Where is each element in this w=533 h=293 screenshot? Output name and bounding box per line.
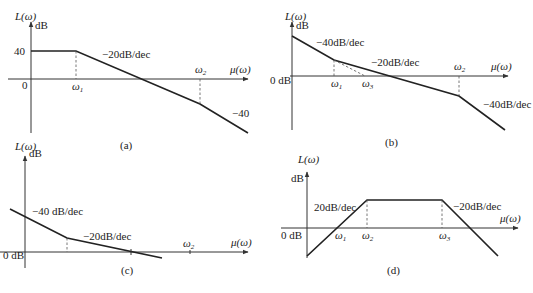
level-label: 40 [14,45,26,57]
tick-omega1: ω1 [72,80,83,94]
caption: (d) [387,264,400,277]
panel-b: L(ω) dB 0 dB −40dB/dec −20dB/dec −40dB/d… [270,10,531,149]
slope-label-1: −40 dB/dec [32,205,83,217]
tick-omega2: ω2 [195,63,207,77]
slope-label-1: −20dB/dec [102,48,150,60]
y-unit-label: dB [296,19,309,31]
tick-omega2: ω2 [454,60,466,74]
asymptote-curve [292,36,505,130]
caption: (b) [385,136,398,149]
x-axis-label: μ(ω) [490,60,512,73]
y-unit-label: dB [29,147,42,159]
slope-label-1: 20dB/dec [314,201,356,213]
slope-label-2: −40 [232,107,250,119]
origin-label: 0 dB [270,74,291,86]
panel-a: L(ω) dB 40 0 ω1 ω2 −20dB/dec −40 μ(ω) (a… [8,10,251,152]
x-axis-label: μ(ω) [499,212,521,225]
y-unit-label: dB [291,172,304,184]
origin-label: 0 [22,79,28,91]
caption: (a) [120,139,133,152]
origin-label: 0 dB [3,249,24,261]
y-unit-label: dB [35,19,48,31]
slope-label-3: −40dB/dec [483,98,531,110]
slope-label-2: −20dB/dec [453,200,501,212]
tick-omega3: ω3 [439,229,451,243]
tick-omega2: ω2 [183,237,195,251]
bode-diagram-figure: L(ω) dB 40 0 ω1 ω2 −20dB/dec −40 μ(ω) (a… [0,0,533,293]
tick-omega2: ω2 [362,229,374,243]
panel-c: L(ω) dB 0 dB −40 dB/dec −20dB/dec ω2 μ(ω… [0,140,252,277]
slope-label-2: −20dB/dec [371,56,419,68]
slope-label-2: −20dB/dec [83,230,131,242]
x-axis-label: μ(ω) [230,236,252,249]
slope-label-1: −40dB/dec [316,36,364,48]
asymptote-curve [31,51,248,133]
origin-label: 0 dB [281,229,302,241]
y-axis-label: L(ω) [14,10,37,23]
tick-omega1: ω1 [335,229,346,243]
y-axis-label: L(ω) [297,153,320,166]
tick-omega3: ω3 [362,77,374,91]
tick-omega1: ω1 [331,77,342,91]
panel-d: L(ω) dB 0 dB 20dB/dec −20dB/dec ω1 ω2 ω3… [281,153,521,277]
x-axis-label: μ(ω) [229,63,251,76]
caption: (c) [121,264,134,277]
